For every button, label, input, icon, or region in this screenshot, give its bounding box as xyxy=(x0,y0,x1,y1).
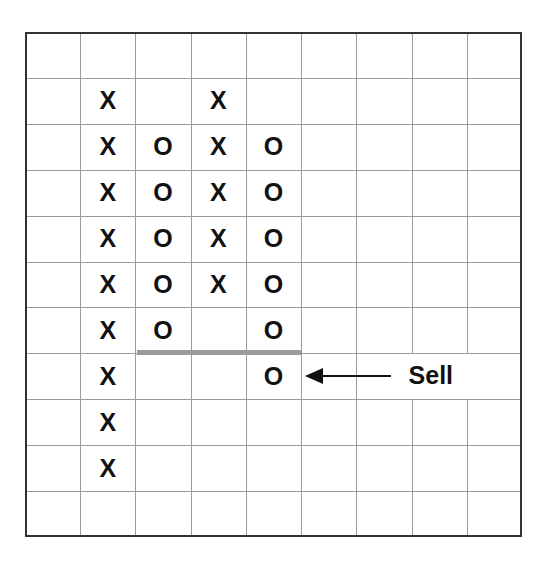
point-and-figure-chart: XXXXXXXXXOOOOOXXXXXOOOOOO Sell xyxy=(25,32,522,537)
chart-border xyxy=(25,32,522,537)
